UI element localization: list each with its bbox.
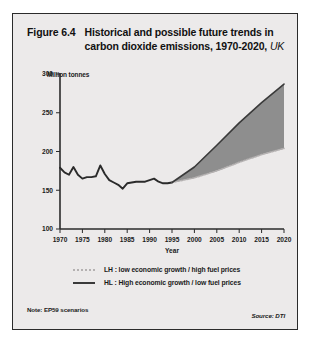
x-axis-tick-label: 2010 [232, 236, 247, 243]
x-axis-tick-label: 2020 [277, 236, 292, 243]
x-axis-tick-label: 1970 [53, 236, 68, 243]
y-axis-tick-label: 150 [42, 187, 53, 194]
y-axis-tick-label: 100 [42, 225, 53, 232]
x-axis-tick-label: 1980 [97, 236, 112, 243]
x-axis-tick-label: 2000 [187, 236, 202, 243]
x-axis-tick-label: 1975 [75, 236, 90, 243]
x-axis-tick-label: 1995 [165, 236, 180, 243]
x-axis-tick-label: 2015 [254, 236, 269, 243]
series-line-historical [60, 165, 172, 188]
y-axis-tick-label: 300 [42, 70, 53, 77]
figure-source: Source: DTI [251, 312, 285, 319]
y-axis-tick-label: 200 [42, 148, 53, 155]
legend-swatch-lh-icon [73, 269, 95, 271]
y-axis-tick-label: 250 [42, 109, 53, 116]
chart-legend: LH : low economic growth / high fuel pri… [73, 263, 273, 289]
figure-panel: Figure 6.4 Historical and possible futur… [12, 13, 298, 330]
legend-swatch-hl-icon [73, 282, 95, 284]
x-axis-title: Year [165, 247, 179, 254]
legend-label-hl: HL : High economic growth / low fuel pri… [104, 279, 241, 286]
figure-note: Note: EP59 scenarios [27, 306, 88, 313]
x-axis-tick-label: 1985 [120, 236, 135, 243]
legend-item-lh: LH : low economic growth / high fuel pri… [73, 263, 273, 276]
legend-label-lh: LH : low economic growth / high fuel pri… [104, 266, 240, 273]
x-axis-tick-label: 1990 [142, 236, 157, 243]
x-axis-tick-label: 2005 [209, 236, 224, 243]
legend-item-hl: HL : High economic growth / low fuel pri… [73, 276, 273, 289]
